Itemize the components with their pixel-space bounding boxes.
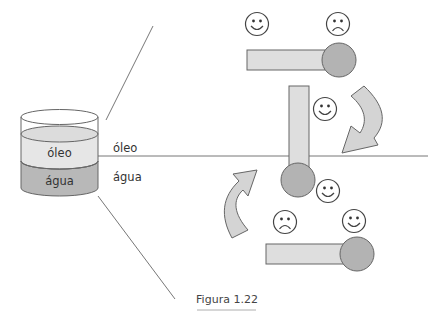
interface-oil-label: óleo xyxy=(113,141,137,155)
oil-surface xyxy=(21,126,98,142)
hydrophobic-tail xyxy=(266,244,344,264)
happy-face-icon xyxy=(343,210,366,233)
hydrophilic-head xyxy=(322,43,356,77)
beaker: óleo água xyxy=(21,110,98,197)
happy-face-icon xyxy=(314,98,337,121)
hydrophobic-tail xyxy=(289,86,309,168)
hydrophilic-head xyxy=(281,163,315,197)
happy-face-icon xyxy=(317,180,340,203)
interface-water-label: água xyxy=(113,170,142,184)
happy-face-icon xyxy=(246,13,269,36)
molecule-middle xyxy=(281,86,315,197)
sad-face-icon xyxy=(327,13,350,36)
oil-water-figure: óleo água óleo água xyxy=(0,0,447,323)
figure-caption: Figura 1.22 xyxy=(196,293,258,306)
beaker-water-label: água xyxy=(45,174,74,188)
beaker-rim xyxy=(21,110,98,125)
hydrophobic-tail xyxy=(247,50,325,70)
molecule-top xyxy=(247,43,356,77)
zoom-line-lower xyxy=(98,196,175,299)
beaker-oil-label: óleo xyxy=(47,146,71,160)
curved-arrow-up-right-icon xyxy=(224,170,257,238)
curved-arrow-down-left-icon xyxy=(342,86,382,153)
sad-face-icon xyxy=(274,211,297,234)
zoom-line-upper xyxy=(106,26,153,120)
hydrophilic-head xyxy=(340,237,374,271)
molecule-bottom xyxy=(266,237,374,271)
